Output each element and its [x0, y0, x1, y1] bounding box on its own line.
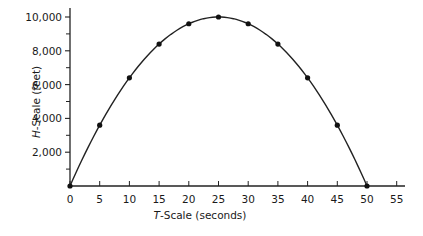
x-tick-label: 30: [242, 193, 255, 205]
y-tick-label: 2,000: [32, 146, 62, 158]
x-tick-label: 55: [390, 193, 403, 205]
data-point: [186, 21, 191, 26]
data-point: [127, 75, 132, 80]
data-point: [97, 123, 102, 128]
x-tick-label: 25: [212, 193, 225, 205]
data-point: [216, 14, 221, 19]
data-point: [305, 75, 310, 80]
x-tick-label: 10: [123, 193, 136, 205]
data-point: [246, 21, 251, 26]
x-axis-ticks: 0510152025303540455055: [67, 181, 404, 205]
x-tick-label: 5: [96, 193, 103, 205]
data-point: [67, 183, 72, 188]
x-tick-label: 0: [67, 193, 74, 205]
trajectory-chart: 2,0004,0006,0008,00010,000 0510152025303…: [0, 0, 423, 236]
data-point: [335, 123, 340, 128]
data-point: [275, 41, 280, 46]
data-point: [157, 41, 162, 46]
parabola-curve: [70, 17, 367, 186]
x-tick-label: 40: [301, 193, 314, 205]
y-axis-title: H-Scale (feet): [30, 66, 42, 138]
x-tick-label: 35: [271, 193, 284, 205]
data-point: [364, 183, 369, 188]
x-tick-label: 15: [152, 193, 165, 205]
x-axis-title: T-Scale (seconds): [154, 209, 247, 221]
x-tick-label: 20: [182, 193, 195, 205]
y-tick-label: 10,000: [25, 11, 62, 23]
x-tick-label: 50: [360, 193, 373, 205]
x-tick-label: 45: [331, 193, 344, 205]
y-tick-label: 8,000: [32, 45, 62, 57]
